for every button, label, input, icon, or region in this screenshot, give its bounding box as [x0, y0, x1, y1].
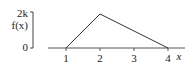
triangular-distribution-chart: 2k f(x) 0 1 2 3 4 x [0, 0, 195, 72]
y-axis [30, 12, 33, 48]
x-tick-label-4: 4 [165, 52, 171, 64]
density-line [66, 14, 168, 48]
x-axis-label: x [176, 50, 182, 62]
y-tick-label-zero: 0 [23, 41, 29, 53]
y-axis-label: f(x) [12, 19, 29, 32]
y-tick-label-top: 2k [17, 7, 29, 19]
x-tick-label-1: 1 [63, 52, 69, 64]
x-tick-label-2: 2 [97, 52, 103, 64]
x-tick-label-3: 3 [131, 52, 137, 64]
